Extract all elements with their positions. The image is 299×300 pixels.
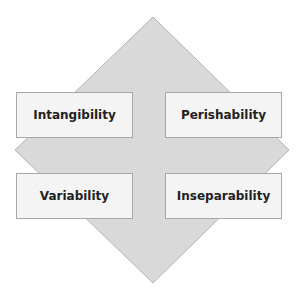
box-inseparability: Inseparability [165, 173, 282, 219]
box-label: Intangibility [33, 108, 116, 122]
diagram: Intangibility Perishability Variability … [0, 0, 299, 300]
box-label: Perishability [181, 108, 266, 122]
box-label: Inseparability [177, 189, 270, 203]
diamond-shape [0, 0, 299, 300]
box-perishability: Perishability [165, 92, 282, 138]
box-intangibility: Intangibility [16, 92, 133, 138]
box-variability: Variability [16, 173, 133, 219]
box-label: Variability [40, 189, 109, 203]
